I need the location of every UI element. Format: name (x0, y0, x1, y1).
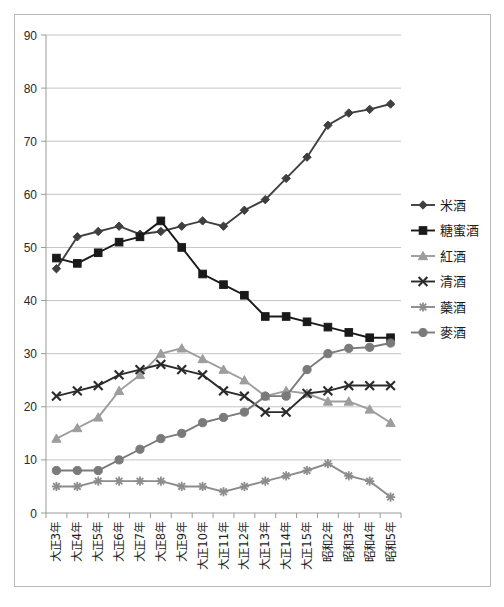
data-point-marker (323, 459, 332, 468)
data-point-marker (419, 328, 427, 336)
x-axis-tick-label: 大正12年 (237, 522, 251, 570)
chart-frame: 0102030405060708090大正3年大正4年大正5年大正6年大正7年大… (14, 14, 491, 587)
data-point-marker (261, 313, 269, 321)
y-axis-tick-label: 30 (24, 347, 38, 361)
legend-label: 藥酒 (440, 300, 466, 315)
data-point-marker (219, 413, 227, 421)
legend-label: 米酒 (440, 198, 466, 213)
data-point-marker (94, 227, 102, 235)
data-point-marker (198, 482, 207, 491)
data-point-marker (240, 376, 249, 384)
data-point-marker (386, 492, 395, 501)
data-point-marker (345, 329, 353, 337)
legend-label: 糖蜜酒 (440, 223, 479, 238)
data-point-marker (241, 291, 249, 299)
legend: 米酒糖蜜酒紅酒清酒藥酒麥酒 (411, 198, 479, 341)
y-axis-tick-label: 70 (24, 135, 38, 149)
data-point-marker (219, 365, 228, 373)
data-point-marker (324, 350, 332, 358)
legend-item-2[interactable]: 紅酒 (411, 249, 466, 264)
y-axis-tick-label: 50 (24, 241, 38, 255)
y-axis-tick-label: 0 (30, 507, 37, 521)
data-point-marker (282, 313, 290, 321)
data-point-marker (240, 408, 248, 416)
data-point-marker (73, 423, 82, 431)
legend-label: 紅酒 (440, 249, 466, 264)
series-0 (52, 100, 395, 273)
legend-label: 清酒 (440, 274, 466, 289)
x-axis-tick-label: 大正7年 (133, 522, 147, 562)
data-point-marker (178, 222, 186, 230)
axes (46, 35, 401, 518)
x-axis-tick-label: 大正4年 (70, 522, 84, 562)
data-point-marker (365, 105, 373, 113)
data-point-marker (136, 445, 144, 453)
x-axis-tick-label: 昭和2年 (321, 522, 335, 562)
legend-item-0[interactable]: 米酒 (411, 198, 466, 213)
data-point-marker (115, 222, 123, 230)
data-point-marker (282, 392, 290, 400)
data-point-marker (261, 392, 269, 400)
data-point-marker (198, 217, 206, 225)
y-axis-tick-label: 60 (24, 188, 38, 202)
data-point-marker (386, 100, 394, 108)
y-axis-tick-label: 90 (24, 29, 38, 43)
data-point-marker (156, 477, 165, 486)
data-point-marker (386, 418, 395, 426)
data-point-marker (94, 466, 102, 474)
data-point-marker (261, 477, 270, 486)
x-axis-tick-label: 大正15年 (300, 522, 314, 570)
x-axis-tick-label: 大正11年 (217, 522, 231, 570)
data-point-marker (52, 434, 61, 442)
y-axis-tick-label: 20 (24, 400, 38, 414)
data-point-marker (157, 227, 165, 235)
data-point-marker (386, 339, 394, 347)
gridlines: 0102030405060708090 (24, 29, 401, 521)
data-point-marker (136, 233, 144, 241)
data-point-marker (199, 270, 207, 278)
x-axis-tick-label: 大正13年 (258, 522, 272, 570)
data-point-marker (53, 254, 61, 262)
data-point-marker (115, 456, 123, 464)
data-point-marker (115, 238, 123, 246)
data-point-marker (178, 244, 186, 252)
line-chart: 0102030405060708090大正3年大正4年大正5年大正6年大正7年大… (15, 15, 492, 588)
data-point-marker (324, 323, 332, 331)
chart-plot-area: 0102030405060708090大正3年大正4年大正5年大正6年大正7年大… (15, 15, 492, 588)
data-point-marker (74, 260, 82, 268)
data-point-marker (419, 201, 427, 209)
data-point-marker (73, 466, 81, 474)
data-point-marker (199, 419, 207, 427)
y-axis-tick-label: 80 (24, 82, 38, 96)
data-point-marker (219, 487, 228, 496)
x-axis-tick-label: 大正14年 (279, 522, 293, 570)
x-axis-tick-label: 大正5年 (91, 522, 105, 562)
data-point-marker (135, 477, 144, 486)
data-point-marker (114, 477, 123, 486)
data-point-marker (157, 217, 165, 225)
x-axis-tick-label: 大正8年 (154, 522, 168, 562)
data-point-marker (73, 482, 82, 491)
series-1 (53, 217, 395, 341)
legend-label: 麥酒 (440, 325, 466, 340)
data-point-marker (240, 482, 249, 491)
data-point-marker (52, 482, 61, 491)
data-point-marker (345, 109, 353, 117)
data-point-marker (52, 466, 60, 474)
legend-item-5[interactable]: 麥酒 (411, 325, 466, 340)
data-point-marker (94, 477, 103, 486)
data-point-marker (419, 227, 427, 235)
data-point-marker (94, 249, 102, 257)
legend-item-1[interactable]: 糖蜜酒 (411, 223, 479, 238)
x-axis-tick-label: 昭和5年 (384, 522, 398, 562)
legend-item-3[interactable]: 清酒 (411, 274, 466, 289)
series-4 (52, 459, 395, 502)
data-point-marker (303, 366, 311, 374)
legend-item-4[interactable]: 藥酒 (411, 300, 466, 315)
y-axis-tick-label: 40 (24, 294, 38, 308)
data-point-marker (198, 354, 207, 362)
data-point-marker (178, 429, 186, 437)
data-point-marker (366, 343, 374, 351)
data-point-marker (282, 471, 291, 480)
data-point-marker (302, 466, 311, 475)
